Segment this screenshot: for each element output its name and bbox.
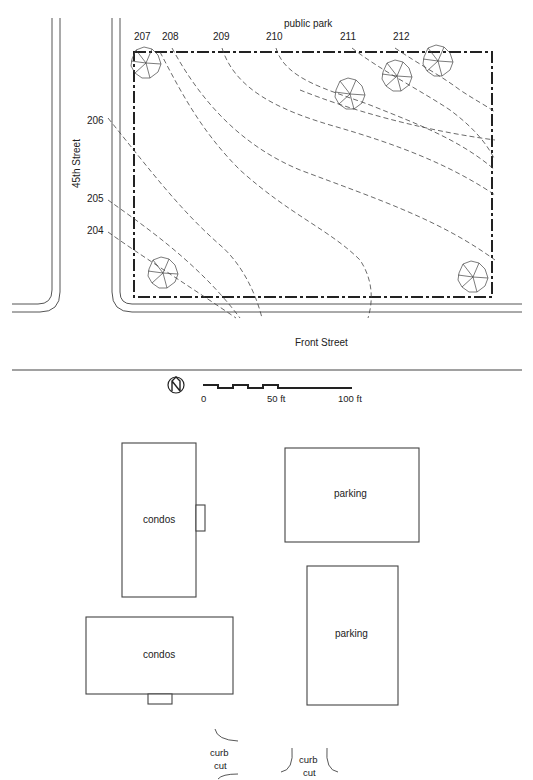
- curb-cut-1: curb cut: [210, 729, 238, 779]
- contour-label: 206: [87, 115, 104, 126]
- contour-label: 204: [87, 225, 104, 236]
- contour-label: 209: [213, 31, 230, 42]
- contour-label: 207: [134, 31, 151, 42]
- scale-label-100: 100 ft: [338, 393, 362, 404]
- curb-cut-label: curb: [210, 747, 228, 758]
- parking-label: parking: [335, 628, 368, 639]
- tree-icon: [382, 60, 412, 91]
- scale-label-50: 50 ft: [267, 393, 286, 404]
- curb-cut-label: cut: [303, 767, 316, 778]
- scale-label-0: 0: [201, 393, 206, 404]
- contour-label: 208: [162, 31, 179, 42]
- condos-label: condos: [143, 514, 175, 525]
- contour-lines: [108, 48, 495, 318]
- condos-label: condos: [143, 649, 175, 660]
- curb-cut-label: cut: [214, 760, 227, 771]
- parking-label: parking: [334, 488, 367, 499]
- road-45th-street: [12, 18, 522, 312]
- tree-icon: [423, 45, 453, 76]
- building-condos-1: condos: [122, 443, 205, 597]
- site-plan-diagram: public park 207 208 209 210 211 212 206 …: [0, 0, 533, 780]
- curb-cut-2: curb cut: [281, 748, 338, 778]
- contour-label: 211: [340, 31, 356, 42]
- north-arrow-icon: [168, 377, 184, 393]
- tree-icon: [335, 78, 365, 109]
- building-parking-1: parking: [285, 448, 419, 542]
- contour-label: 210: [266, 31, 283, 42]
- 45th-street-label: 45th Street: [71, 139, 82, 188]
- building-condos-2: condos: [86, 617, 233, 704]
- building-parking-2: parking: [307, 566, 398, 705]
- contour-label: 205: [87, 193, 104, 204]
- front-street-label: Front Street: [295, 337, 348, 348]
- contour-label: 212: [393, 31, 410, 42]
- tree-icon: [148, 257, 178, 288]
- curb-cut-label: curb: [299, 754, 317, 765]
- public-park-label: public park: [284, 18, 333, 29]
- tree-icon: [458, 261, 488, 292]
- scale-bar: 0 50 ft 100 ft: [201, 385, 362, 404]
